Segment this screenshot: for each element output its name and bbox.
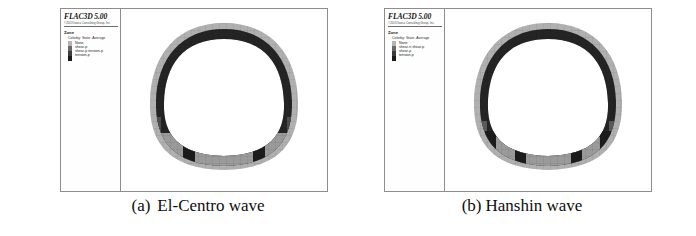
legend-rows-a: None shear-p shear-p tension-p tension-p [68, 41, 120, 57]
legend-swatch-bar-a [68, 41, 72, 61]
caption-tag: (b) [462, 196, 482, 215]
caption-a: (a)El-Centro wave [48, 196, 348, 216]
tunnel-cross-section-b [445, 9, 651, 191]
legend-labels-b: None shear-n shear-p shear-p tension-p [399, 41, 444, 57]
zone-mesh-overlay [121, 9, 327, 191]
legend-panel-a: FLAC3D 5.00 ©2013 Itasca Consulting Grou… [61, 9, 121, 191]
flac3d-plot-window-b: FLAC3D 5.00 ©2013 Itasca Consulting Grou… [384, 8, 652, 192]
legend-panel-b: FLAC3D 5.00 ©2013 Itasca Consulting Grou… [385, 9, 445, 191]
caption-tag: (a) [131, 196, 150, 215]
brand-subtitle: ©2013 Itasca Consulting Group, Inc. [64, 21, 118, 25]
tunnel-view-area-b [445, 9, 651, 191]
legend-item-label: tension-p [75, 53, 120, 57]
tunnel-view-area-a [121, 9, 327, 191]
brand-block-a: FLAC3D 5.00 ©2013 Itasca Consulting Grou… [64, 12, 118, 27]
legend-group-title: Zone [64, 30, 120, 35]
brand-title: FLAC3D 5.00 [64, 12, 118, 21]
legend-swatch-bar-b [392, 41, 396, 61]
subfigure-b: FLAC3D 5.00 ©2013 Itasca Consulting Grou… [372, 0, 672, 236]
legend-group-title: Zone [388, 30, 444, 35]
caption-text: Hanshin wave [486, 196, 583, 215]
brand-title: FLAC3D 5.00 [388, 12, 442, 21]
subfigure-a: FLAC3D 5.00 ©2013 Itasca Consulting Grou… [48, 0, 348, 236]
legend-item-label: tension-p [399, 53, 444, 57]
caption-text: El-Centro wave [157, 196, 264, 215]
legend-labels-a: None shear-p shear-p tension-p tension-p [75, 41, 120, 57]
zone-mesh-overlay [445, 9, 651, 191]
brand-block-b: FLAC3D 5.00 ©2013 Itasca Consulting Grou… [388, 12, 442, 27]
legend-swatch-tension-p [392, 56, 396, 61]
legend-rows-b: None shear-n shear-p shear-p tension-p [392, 41, 444, 57]
tunnel-cross-section-a [121, 9, 327, 191]
figure-root: FLAC3D 5.00 ©2013 Itasca Consulting Grou… [0, 0, 696, 236]
caption-b: (b)Hanshin wave [372, 196, 672, 216]
legend-swatch-tension-p [68, 56, 72, 61]
flac3d-plot-window-a: FLAC3D 5.00 ©2013 Itasca Consulting Grou… [60, 8, 328, 192]
brand-subtitle: ©2013 Itasca Consulting Group, Inc. [388, 21, 442, 25]
